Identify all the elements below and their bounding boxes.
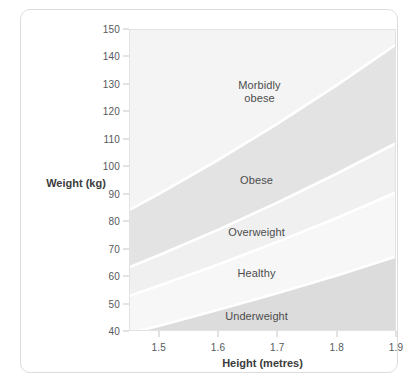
y-tick-label: 120	[103, 106, 120, 117]
y-tick-label: 40	[108, 326, 120, 337]
x-tick-mark	[218, 331, 219, 337]
y-tick-mark	[123, 138, 129, 139]
y-tick-label: 50	[108, 298, 120, 309]
x-tick-label: 1.9	[389, 342, 404, 353]
bmi-chart-card: Weight (kg) 1501401301201101009080706050…	[20, 9, 398, 373]
y-tick-label: 110	[103, 133, 120, 144]
x-tick-mark	[277, 331, 278, 337]
x-tick-label: 1.7	[270, 342, 285, 353]
y-tick-label: 100	[103, 161, 120, 172]
y-tick-label: 90	[108, 188, 120, 199]
plot-region	[129, 29, 396, 331]
x-axis-title: Height (metres)	[222, 357, 303, 369]
x-tick-mark	[396, 331, 397, 337]
y-tick-label: 70	[108, 243, 120, 254]
y-tick-label: 80	[108, 216, 120, 227]
x-tick-label: 1.5	[151, 342, 166, 353]
y-axis-title: Weight (kg)	[29, 177, 123, 189]
bmi-bands-svg	[130, 30, 395, 330]
x-tick-mark	[158, 331, 159, 337]
y-tick-mark	[123, 29, 129, 30]
chart-plot-area: 150140130120110100908070605040 1.51.61.7…	[129, 29, 396, 331]
y-tick-mark	[123, 248, 129, 249]
x-tick-mark	[336, 331, 337, 337]
y-tick-mark	[123, 276, 129, 277]
y-tick-label: 140	[103, 51, 120, 62]
y-tick-mark	[123, 111, 129, 112]
y-tick-mark	[123, 56, 129, 57]
y-tick-mark	[123, 303, 129, 304]
y-tick-mark	[123, 83, 129, 84]
y-tick-mark	[123, 166, 129, 167]
y-tick-label: 130	[103, 78, 120, 89]
y-tick-mark	[123, 221, 129, 222]
y-tick-mark	[123, 331, 129, 332]
y-tick-label: 150	[103, 24, 120, 35]
y-tick-mark	[123, 193, 129, 194]
x-tick-label: 1.6	[211, 342, 226, 353]
y-tick-label: 60	[108, 271, 120, 282]
x-tick-label: 1.8	[329, 342, 344, 353]
